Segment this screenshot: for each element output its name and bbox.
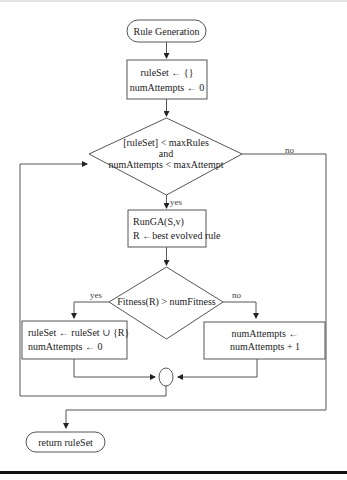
arrow-fitness-no bbox=[223, 302, 256, 318]
flowchart: Rule Generation ruleSet ← {} numAttempts… bbox=[0, 0, 347, 480]
run-ga-line-2: R ←best evolved rule bbox=[133, 230, 221, 241]
arrow-increment-to-merge bbox=[178, 359, 257, 377]
increment-line-1: numAttempts ← bbox=[232, 328, 299, 339]
start-label: Rule Generation bbox=[134, 26, 200, 37]
increment-box: numAttempts ← numAttempts + 1 bbox=[204, 322, 325, 359]
merge-connector bbox=[159, 368, 173, 386]
end-label: return ruleSet bbox=[38, 437, 93, 448]
loop-condition-line-1: [ruleSet] < maxRules bbox=[123, 137, 209, 148]
fitness-yes-label: yes bbox=[90, 290, 102, 300]
loop-condition-diamond: [ruleSet] < maxRules and numAttempts < m… bbox=[89, 118, 242, 195]
loop-yes-label: yes bbox=[170, 197, 182, 207]
init-line-2: numAttempts ← 0 bbox=[130, 82, 204, 93]
arrow-addrule-to-merge bbox=[74, 359, 155, 377]
end-terminator: return ruleSet bbox=[26, 432, 105, 452]
add-rule-box: ruleSet ← ruleSet ∪ {R} numAttempts ← 0 bbox=[22, 321, 129, 359]
run-ga-line-1: RunGA(S,v) bbox=[133, 216, 184, 228]
loop-condition-line-3: numAttempts < maxAttempt bbox=[108, 159, 223, 170]
arrow-fitness-yes bbox=[74, 302, 109, 318]
arrow-loop-back bbox=[20, 164, 166, 396]
fitness-no-label: no bbox=[232, 290, 242, 300]
start-terminator: Rule Generation bbox=[127, 20, 206, 42]
init-box: ruleSet ← {} numAttempts ← 0 bbox=[127, 60, 207, 99]
init-line-1: ruleSet ← {} bbox=[141, 67, 194, 78]
run-ga-box: RunGA(S,v) R ←best evolved rule bbox=[128, 210, 221, 247]
loop-condition-line-2: and bbox=[159, 148, 173, 159]
fitness-condition-label: Fitness(R) > numFitness bbox=[117, 296, 216, 308]
add-rule-line-1: ruleSet ← ruleSet ∪ {R} bbox=[28, 327, 129, 338]
bottom-rule bbox=[0, 471, 347, 474]
add-rule-line-2: numAttempts ← 0 bbox=[28, 341, 102, 352]
increment-line-2: numAttempts + 1 bbox=[230, 341, 300, 352]
